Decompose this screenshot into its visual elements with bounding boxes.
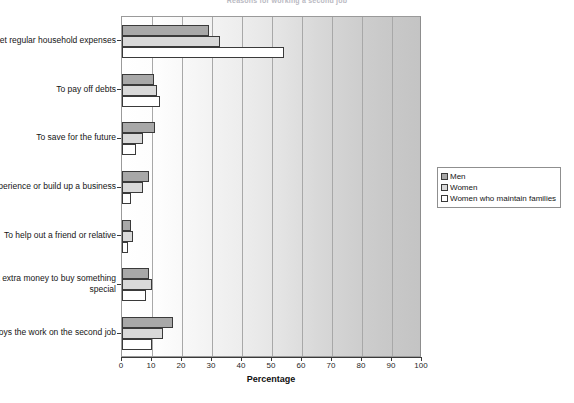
gridline	[182, 17, 183, 356]
bar-women-who-maintain-families	[122, 339, 152, 350]
gridline	[362, 17, 363, 356]
y-axis-label: To pay off debts	[0, 84, 116, 95]
chart-title: Reasons for working a second job	[0, 0, 574, 6]
legend-label-men: Men	[450, 172, 466, 181]
y-axis-label: To get extra money to buy something spec…	[0, 273, 116, 295]
chart-legend: Men Women Women who maintain families	[437, 167, 561, 208]
y-axis-tick	[117, 187, 121, 188]
gridline	[332, 17, 333, 356]
bar-chart: Reasons for working a second job 0102030…	[0, 0, 574, 403]
bar-women-who-maintain-families	[122, 47, 284, 58]
legend-item-women: Women	[441, 182, 556, 193]
bar-women	[122, 231, 133, 242]
x-axis-tick-label: 60	[286, 361, 316, 370]
y-axis-tick	[117, 333, 121, 334]
bar-women	[122, 279, 152, 290]
bar-men	[122, 171, 149, 182]
legend-item-men: Men	[441, 171, 556, 182]
plot-area	[121, 16, 421, 357]
y-axis-label: To get experience or build up a business	[0, 181, 116, 192]
y-axis-tick	[117, 89, 121, 90]
y-axis-tick	[117, 138, 121, 139]
bar-men	[122, 25, 209, 36]
legend-label-women: Women	[450, 183, 477, 192]
x-axis-tick-label: 20	[166, 361, 196, 370]
gridline	[392, 17, 393, 356]
legend-item-women-who-maintain-families: Women who maintain families	[441, 193, 556, 204]
x-axis-tick-label: 90	[376, 361, 406, 370]
bar-women	[122, 36, 220, 47]
y-axis-tick	[117, 235, 121, 236]
y-axis-label: To save for the future	[0, 132, 116, 143]
bar-women-who-maintain-families	[122, 193, 131, 204]
y-axis-label: Enjoys the work on the second job	[0, 327, 116, 338]
y-axis-tick	[117, 40, 121, 41]
x-axis-tick-label: 0	[106, 361, 136, 370]
bar-men	[122, 268, 149, 279]
bar-women-who-maintain-families	[122, 242, 128, 253]
legend-swatch-men-icon	[441, 173, 448, 180]
legend-label-women-who-maintain-families: Women who maintain families	[450, 194, 556, 203]
bar-men	[122, 317, 173, 328]
gridline	[302, 17, 303, 356]
y-axis-tick	[117, 284, 121, 285]
bar-men	[122, 122, 155, 133]
bar-women	[122, 182, 143, 193]
gridline	[212, 17, 213, 356]
bar-men	[122, 74, 154, 85]
y-axis-label: To meet regular household expenses	[0, 35, 116, 46]
gridline	[272, 17, 273, 356]
x-axis-tick-label: 100	[406, 361, 436, 370]
x-axis-tick-label: 50	[256, 361, 286, 370]
bar-women	[122, 85, 157, 96]
legend-swatch-women-icon	[441, 184, 448, 191]
bar-women-who-maintain-families	[122, 144, 136, 155]
x-axis-tick-label: 10	[136, 361, 166, 370]
bar-men	[122, 220, 131, 231]
y-axis-label: To help out a friend or relative	[0, 230, 116, 241]
gridline	[242, 17, 243, 356]
x-axis-tick-label: 30	[196, 361, 226, 370]
legend-swatch-women-who-maintain-families-icon	[441, 195, 448, 202]
bar-women-who-maintain-families	[122, 290, 146, 301]
bar-women	[122, 328, 163, 339]
x-axis-title: Percentage	[121, 374, 421, 384]
x-axis-tick-label: 40	[226, 361, 256, 370]
gridline	[152, 17, 153, 356]
bar-women	[122, 133, 143, 144]
x-axis-tick-label: 80	[346, 361, 376, 370]
x-axis-tick-label: 70	[316, 361, 346, 370]
bar-women-who-maintain-families	[122, 96, 160, 107]
